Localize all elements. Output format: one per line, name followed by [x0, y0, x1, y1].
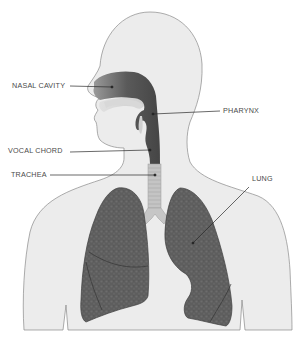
label-lung: LUNG	[252, 175, 273, 182]
label-pharynx: PHARYNX	[223, 107, 259, 114]
label-trachea: TRACHEA	[11, 171, 47, 178]
label-nasal-cavity: NASAL CAVITY	[12, 82, 65, 89]
label-vocal-chord: VOCAL CHORD	[8, 147, 63, 154]
